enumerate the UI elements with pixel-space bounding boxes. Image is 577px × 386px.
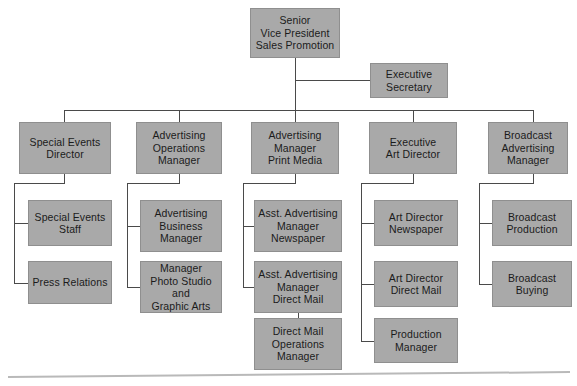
org-node-exec_sec[interactable]: Executive Secretary <box>370 63 448 98</box>
connector-ap-across <box>243 183 296 184</box>
org-chart: Senior Vice President Sales PromotionExe… <box>0 0 577 386</box>
connector-se-stub-press <box>14 283 29 284</box>
org-node-art_dir_news[interactable]: Art Director Newspaper <box>374 200 458 246</box>
org-node-asst_adv_mgr_news[interactable]: Asst. Advertising Manager Newspaper <box>254 200 342 252</box>
org-node-production_mgr[interactable]: Production Manager <box>374 318 458 363</box>
org-node-broadcast_adv_mgr[interactable]: Broadcast Advertising Manager <box>488 122 568 174</box>
connector-ao-stub-business <box>127 226 141 227</box>
org-node-asst_adv_mgr_mail[interactable]: Asst. Advertising Manager Direct Mail <box>254 261 342 313</box>
org-node-svp[interactable]: Senior Vice President Sales Promotion <box>250 8 340 58</box>
org-node-broadcast_buying[interactable]: Broadcast Buying <box>492 261 572 307</box>
connector-ea-drop <box>413 174 414 183</box>
connector-ba-drop <box>533 174 534 183</box>
org-node-mgr_photo_studio[interactable]: Manager Photo Studio and Graphic Arts <box>140 261 222 313</box>
connector-ap-spine <box>243 183 244 287</box>
connector-ea-stub-news <box>361 223 375 224</box>
connector-se-stub-staff <box>14 223 29 224</box>
org-node-art_dir_mail[interactable]: Art Director Direct Mail <box>374 261 458 307</box>
connector-ao-drop <box>179 174 180 183</box>
bottom-rule <box>8 371 570 378</box>
org-node-adv_mgr_print[interactable]: Advertising Manager Print Media <box>251 122 339 174</box>
connector-svp-drop-to-bus <box>295 58 296 110</box>
org-node-special_events_staff[interactable]: Special Events Staff <box>28 200 112 246</box>
org-node-direct_mail_ops[interactable]: Direct Mail Operations Manager <box>254 318 342 370</box>
connector-ea-spine <box>361 183 362 341</box>
connector-ea-stub-mail <box>361 284 375 285</box>
connector-bus-to-adv-print <box>295 110 296 122</box>
connector-ao-across <box>127 183 180 184</box>
connector-svp-to-exec-sec <box>295 80 370 81</box>
connector-se-drop <box>64 174 65 183</box>
org-node-adv_ops_mgr[interactable]: Advertising Operations Manager <box>136 122 222 174</box>
connector-ea-across <box>361 183 414 184</box>
connector-ba-stub-buying <box>479 284 493 285</box>
connector-ao-stub-photo <box>127 287 141 288</box>
connector-ba-across <box>479 183 534 184</box>
connector-bus-to-adv-ops <box>179 110 180 122</box>
connector-se-across <box>14 183 65 184</box>
connector-bus-to-broadcast <box>533 110 534 122</box>
connector-ba-stub-production <box>479 223 493 224</box>
connector-ap-drop <box>295 174 296 183</box>
connector-ao-spine <box>127 183 128 287</box>
connector-bus-to-exec-art <box>413 110 414 122</box>
org-node-press_relations[interactable]: Press Relations <box>28 261 112 304</box>
org-node-exec_art_dir[interactable]: Executive Art Director <box>369 122 457 174</box>
connector-ea-stub-prod <box>361 341 375 342</box>
connector-level1-bus <box>64 110 533 111</box>
connector-bus-to-special-events <box>64 110 65 122</box>
org-node-broadcast_production[interactable]: Broadcast Production <box>492 200 572 246</box>
org-node-special_events_dir[interactable]: Special Events Director <box>19 122 111 174</box>
connector-se-spine <box>14 183 15 283</box>
org-node-adv_business_mgr[interactable]: Advertising Business Manager <box>140 200 222 252</box>
connector-ba-spine <box>479 183 480 284</box>
